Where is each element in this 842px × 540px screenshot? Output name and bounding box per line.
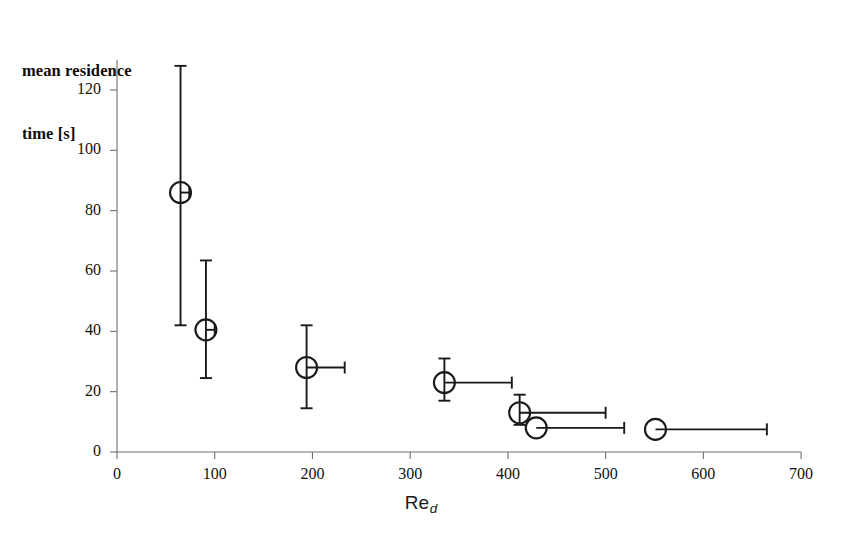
data-point — [296, 325, 345, 408]
data-point — [526, 417, 624, 438]
data-point-marker[interactable] — [526, 417, 547, 438]
data-point — [170, 66, 191, 325]
data-point-marker[interactable] — [434, 372, 455, 393]
data-points-group — [170, 66, 767, 440]
data-point — [195, 260, 216, 378]
axes-group — [110, 60, 801, 459]
data-point-marker[interactable] — [296, 357, 317, 378]
data-point-marker[interactable] — [509, 402, 530, 423]
chart-figure: mean residence time [s] Red 010020030040… — [0, 0, 842, 540]
data-point-marker[interactable] — [645, 419, 666, 440]
data-point-marker[interactable] — [170, 182, 191, 203]
plot-area — [0, 0, 842, 540]
data-point — [645, 419, 767, 440]
data-point — [434, 358, 512, 400]
data-point-marker[interactable] — [195, 319, 216, 340]
data-point — [509, 395, 606, 425]
